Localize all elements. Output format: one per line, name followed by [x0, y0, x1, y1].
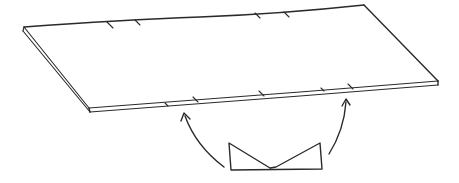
board-right-edge	[364, 5, 438, 81]
support-shape	[229, 143, 322, 170]
tick-mark	[165, 103, 168, 106]
board-diagram	[0, 0, 459, 183]
board-left-edge-bottom	[23, 31, 90, 112]
board-front-edge-top	[89, 81, 438, 108]
support-outline	[229, 143, 322, 170]
arrows	[181, 99, 350, 167]
board-front-edge-bottom	[90, 85, 438, 112]
left-arrow	[185, 116, 224, 167]
board-left-edge-top	[24, 27, 89, 108]
right-arrow	[329, 102, 346, 154]
tick-mark	[135, 20, 140, 25]
tick-mark	[107, 22, 113, 28]
sketch-canvas	[0, 0, 459, 183]
board-back-edge	[24, 5, 364, 27]
board	[23, 5, 438, 112]
